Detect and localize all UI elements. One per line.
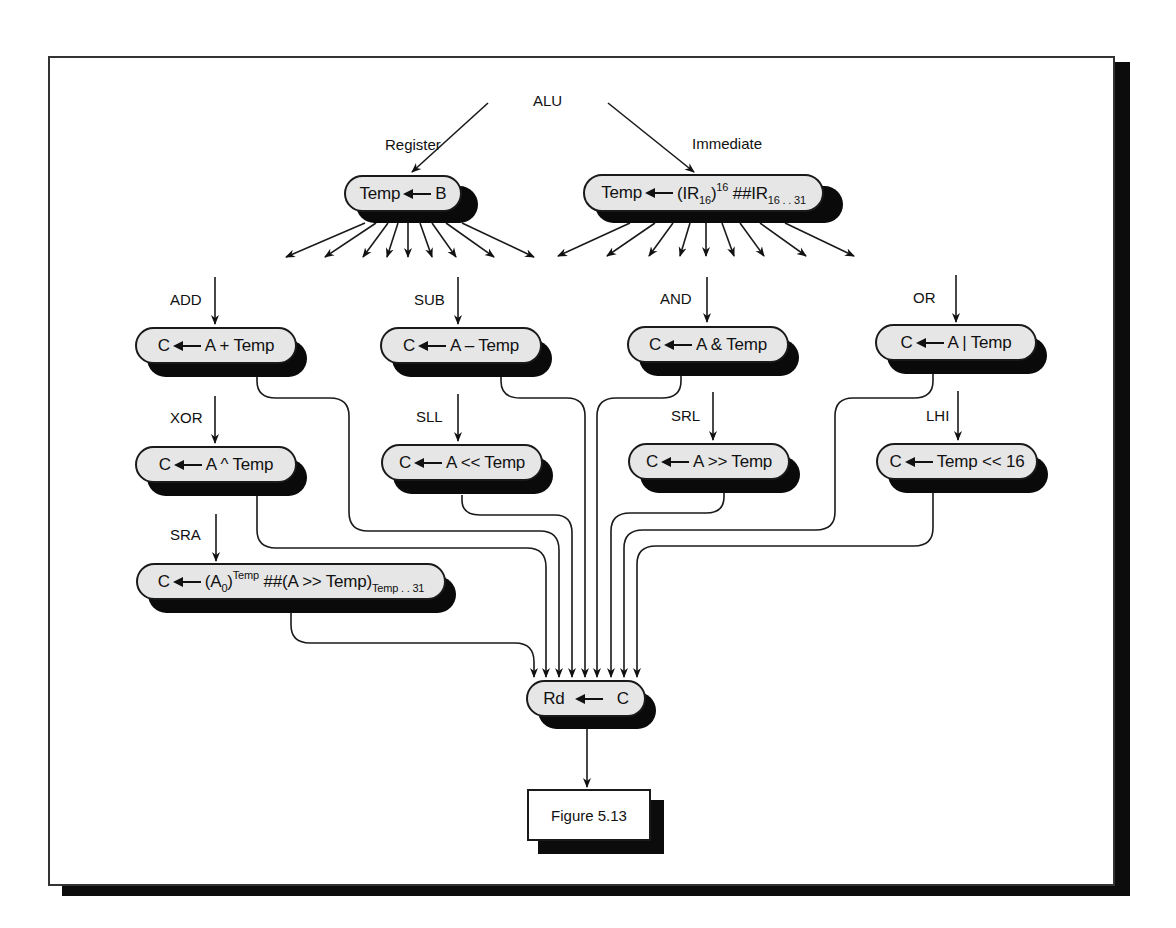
- assign-arrow-icon: [420, 345, 446, 347]
- pill-dest: Temp: [360, 184, 401, 204]
- immediate-branch-label: Immediate: [692, 135, 762, 152]
- pill-dest: C: [649, 335, 661, 355]
- assign-arrow-icon: [176, 464, 202, 466]
- op-label-or: OR: [913, 289, 936, 306]
- immediate-state-pill: Temp (IR16)16 ##IR16 . . 31: [583, 174, 824, 212]
- op-pill-xor: C A ^ Temp: [135, 446, 297, 483]
- assign-arrow-icon: [175, 581, 201, 583]
- pill-dest: C: [403, 336, 415, 356]
- assign-arrow-icon: [907, 461, 933, 463]
- op-label-sra: SRA: [170, 526, 201, 543]
- pill-dest: C: [159, 455, 171, 475]
- pill-expr: A – Temp: [450, 336, 519, 356]
- op-label-and: AND: [660, 290, 692, 307]
- op-pill-sra: C (A0)Temp ##(A >> Temp)Temp . . 31: [136, 563, 446, 600]
- pill-src: C: [617, 689, 629, 709]
- op-label-add: ADD: [170, 291, 202, 308]
- figure-caption: Figure 5.13: [527, 789, 651, 841]
- op-label-srl: SRL: [671, 407, 700, 424]
- pill-dest: Rd: [543, 689, 564, 709]
- pill-expr: (IR16)16 ##IR16 . . 31: [677, 181, 806, 206]
- pill-expr: A | Temp: [948, 333, 1012, 353]
- op-pill-sll: C A << Temp: [381, 444, 543, 481]
- pill-expr: B: [435, 184, 446, 204]
- assign-arrow-icon: [416, 462, 442, 464]
- op-label-sub: SUB: [414, 291, 445, 308]
- pill-dest: Temp: [601, 183, 642, 203]
- op-pill-sub: C A – Temp: [380, 327, 542, 364]
- pill-dest: C: [158, 572, 170, 592]
- pill-dest: C: [646, 452, 658, 472]
- op-pill-lhi: C Temp << 16: [876, 443, 1038, 480]
- pill-dest: C: [158, 336, 170, 356]
- pill-dest: C: [399, 453, 411, 473]
- assign-arrow-icon: [175, 345, 201, 347]
- op-pill-add: C A + Temp: [135, 327, 297, 364]
- pill-dest: C: [890, 452, 902, 472]
- register-branch-label: Register: [385, 136, 441, 153]
- writeback-pill: Rd C: [526, 680, 646, 717]
- pill-dest: C: [900, 333, 912, 353]
- op-pill-srl: C A >> Temp: [628, 443, 790, 480]
- op-pill-or: C A | Temp: [875, 324, 1037, 361]
- assign-arrow-icon: [405, 193, 431, 195]
- op-label-xor: XOR: [170, 409, 203, 426]
- register-state-pill: Temp B: [344, 175, 462, 212]
- pill-expr: A ^ Temp: [206, 455, 274, 475]
- assign-arrow-icon: [577, 698, 603, 700]
- assign-arrow-icon: [663, 461, 689, 463]
- pill-expr: A & Temp: [696, 335, 767, 355]
- assign-arrow-icon: [918, 342, 944, 344]
- pill-expr: (A0)Temp ##(A >> Temp)Temp . . 31: [205, 569, 424, 594]
- op-pill-and: C A & Temp: [627, 326, 789, 363]
- assign-arrow-icon: [666, 344, 692, 346]
- pill-expr: Temp << 16: [937, 452, 1025, 472]
- pill-expr: A >> Temp: [693, 452, 772, 472]
- op-label-sll: SLL: [416, 408, 443, 425]
- op-label-lhi: LHI: [926, 407, 949, 424]
- assign-arrow-icon: [647, 192, 673, 194]
- pill-expr: A + Temp: [205, 336, 274, 356]
- pill-expr: A << Temp: [446, 453, 525, 473]
- alu-label: ALU: [533, 92, 562, 109]
